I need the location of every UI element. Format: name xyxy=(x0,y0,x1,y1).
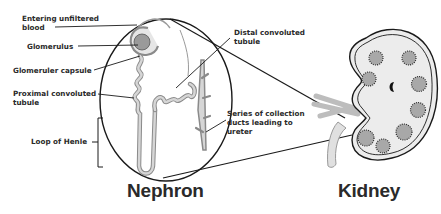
label-glomerulus: Glomerulus xyxy=(27,42,73,51)
collecting-duct xyxy=(198,60,206,150)
magnify-line-bottom xyxy=(163,135,352,178)
label-collection-ducts: Series of collection ducts leading to ur… xyxy=(227,109,305,136)
leader-proximal-tubule xyxy=(98,94,134,98)
leader-glomerular-capsule xyxy=(94,56,140,70)
glomerulus xyxy=(134,34,150,50)
loop-of-henle-bracket xyxy=(92,118,103,167)
leader-glomerulus xyxy=(78,45,138,46)
label-proximal-convoluted-tubule: Proximal convoluted tubule xyxy=(13,89,96,107)
leader-collecting-ducts xyxy=(206,120,226,132)
label-distal-convoluted-tubule: Distal convoluted tubule xyxy=(234,28,305,46)
nephron-title: Nephron xyxy=(127,180,204,202)
label-glomerular-capsule: Glomeruler capsule xyxy=(13,66,92,75)
proximal-convoluted-tubule xyxy=(134,56,155,174)
ureter xyxy=(327,122,346,167)
kidney-title: Kidney xyxy=(338,180,400,202)
label-entering-unfiltered-blood: Entering unfiltered blood xyxy=(22,14,99,32)
label-loop-of-henle: Loop of Henle xyxy=(31,137,87,146)
